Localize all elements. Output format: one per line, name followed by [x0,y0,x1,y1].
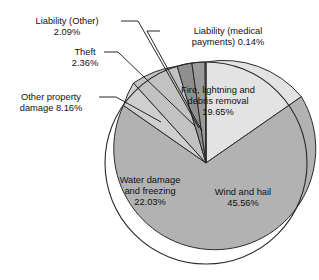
label-fire-line2: debris removal [188,96,249,106]
label-liability-medical-line2: payments) 0.14% [192,37,264,47]
label-water-line2: and freezing [124,186,175,196]
label-other-property-line1: Other property [21,92,81,102]
label-wind-line2: 45.56% [227,198,259,208]
label-fire-line3: 19.65% [202,107,234,117]
pie-chart-figure: Liability (Other) 2.09% Liability (medic… [0,0,319,280]
label-water-line1: Water damage [120,175,181,185]
label-liability-medical-line1: Liability (medical [194,26,263,36]
label-liability-other-line1: Liability (Other) [35,16,98,26]
label-liability-other-line2: 2.09% [54,27,80,37]
label-fire-line1: Fire, lightning and [181,85,255,95]
label-other-property-line2: damage 8.16% [20,103,83,113]
pie-chart-svg: Liability (Other) 2.09% Liability (medic… [0,0,319,280]
label-theft-line1: Theft [74,47,96,57]
label-water-line3: 22.03% [134,197,166,207]
label-theft-line2: 2.36% [72,58,98,68]
label-wind-line1: Wind and hail [215,187,271,197]
